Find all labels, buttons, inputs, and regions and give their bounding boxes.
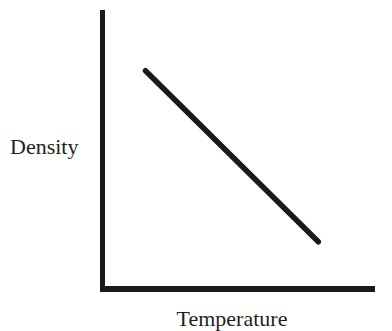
chart-canvas [0,0,392,331]
x-axis-label-container: Temperature [0,306,392,331]
data-line-density-temperature [146,71,319,242]
x-axis-label: Temperature [177,306,288,331]
y-axis-label: Density [10,134,78,160]
